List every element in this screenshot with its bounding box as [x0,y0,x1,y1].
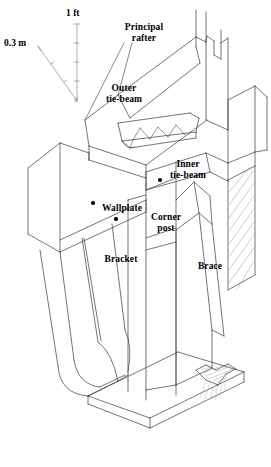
post-head-stepped [206,30,228,130]
scale-zero-label: 0 [74,97,77,103]
label-inner-tie-beam: Inner tie-beam [163,159,213,180]
isometric-drawing [0,0,271,467]
scale-label-imperial: 1 ft [66,8,79,18]
scale-bar-metric [38,46,77,101]
post-head-left [196,10,206,42]
scale-bar-imperial [74,24,80,101]
base-sill-plate [88,352,244,428]
corner-post-left-face [128,195,146,380]
cut-section-hatching [229,167,254,289]
dot-wallplate-upper [91,201,95,205]
label-bracket: Bracket [98,254,144,265]
right-cut-section [228,166,255,290]
corner-post-member [146,162,176,390]
dot-wallplate-lower [114,217,118,221]
mortise-hole [196,364,236,385]
tenon-stubs [128,380,176,400]
scale-label-metric: 0.3 m [4,38,26,48]
dot-inner-tie-beam [158,178,162,182]
label-brace: Brace [192,261,228,272]
label-principal-rafter: Principal rafter [116,22,172,43]
label-wallplate: Wallplate [96,203,148,214]
right-upper-beam-end [228,86,267,166]
mortise-shadow [200,377,226,400]
label-outer-tie-beam: Outer tie-beam [98,83,150,104]
timber-frame-figure: 0.3 m 1 ft 0 Principal rafter Outer tie-… [0,0,271,467]
label-corner-post: Corner post [146,212,186,233]
bracket-member [40,224,130,396]
